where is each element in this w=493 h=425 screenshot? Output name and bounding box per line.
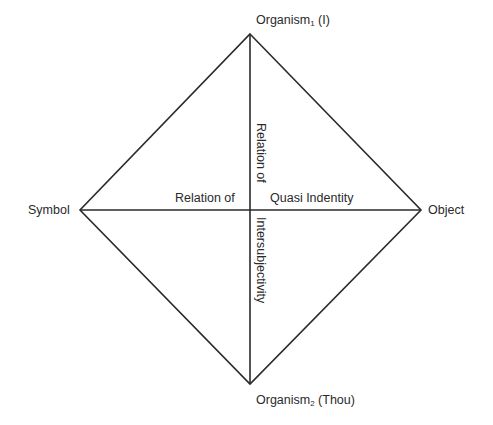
- horizontal-label-right: Quasi Indentity: [270, 192, 353, 205]
- vertical-label-bottom: Intersubjectivity: [255, 217, 268, 303]
- vertical-label-top: Relation of: [255, 123, 268, 183]
- bottom-label-suffix: (Thou): [315, 393, 355, 407]
- top-label-main: Organism: [256, 13, 310, 27]
- top-label-suffix: (I): [315, 13, 330, 27]
- horizontal-label-left: Relation of: [175, 192, 235, 205]
- vertex-label-bottom: Organism2 (Thou): [256, 394, 355, 408]
- vertex-label-right: Object: [428, 204, 464, 217]
- bottom-label-main: Organism: [256, 393, 310, 407]
- diamond-diagram: [0, 0, 493, 425]
- vertex-label-left: Symbol: [28, 204, 70, 217]
- vertex-label-top: Organism1 (I): [256, 14, 330, 28]
